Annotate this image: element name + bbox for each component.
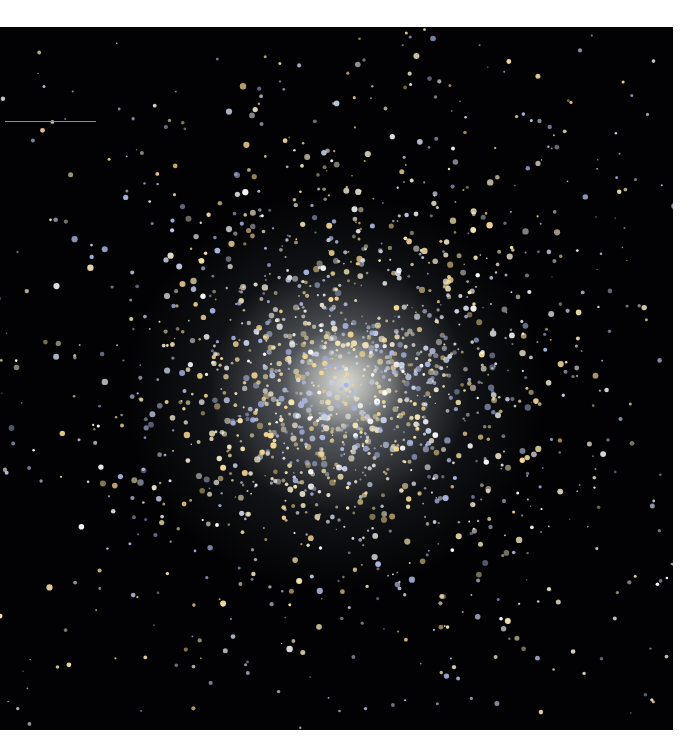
star-field [0,27,673,730]
star-cluster-photo [0,27,673,730]
scale-bar [5,121,96,122]
